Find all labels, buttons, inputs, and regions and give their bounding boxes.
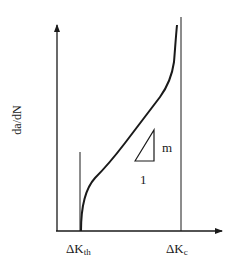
slope-rise-label: m [162, 140, 172, 155]
critical-label: ΔKc [166, 241, 188, 257]
threshold-label: ΔKth [66, 241, 91, 257]
growth-curve [81, 25, 177, 231]
crack-growth-diagram: m 1 da/dN ΔKth ΔKc [0, 0, 232, 269]
y-axis-label: da/dN [10, 105, 24, 135]
slope-run-label: 1 [140, 172, 147, 187]
slope-triangle [135, 130, 154, 161]
